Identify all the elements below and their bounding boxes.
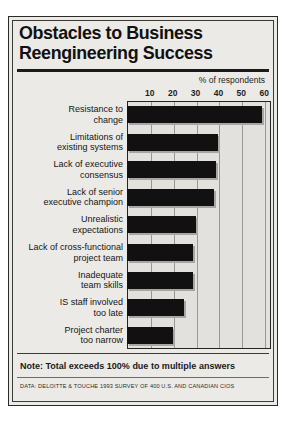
bar-series: Resistance to changeLimitations of exist… <box>9 101 278 349</box>
bar-row: Unrealistic expectations <box>9 211 278 239</box>
bar-row: Lack of senior executive champion <box>9 184 278 212</box>
bar-category-label: IS staff involved too late <box>8 297 123 318</box>
x-tick-label: 40 <box>214 88 223 98</box>
chart-title-line-2: Reengineering Success <box>19 43 252 63</box>
title-divider <box>17 69 269 72</box>
bar-category-label: Resistance to change <box>8 104 123 125</box>
note-divider <box>17 353 269 354</box>
x-tick-label: 30 <box>191 88 200 98</box>
bar-row: Resistance to change <box>9 101 278 129</box>
x-tick-label: 20 <box>168 88 177 98</box>
bar <box>127 244 193 261</box>
chart-source: DATA: DELOITTE & TOUCHE 1993 SURVEY OF 4… <box>20 383 234 389</box>
bar-category-label: Lack of cross-functional project team <box>8 242 123 263</box>
x-tick-label: 10 <box>145 88 154 98</box>
bar <box>127 272 193 289</box>
bar-row: Lack of cross-functional project team <box>9 239 278 267</box>
chart-note: Note: Total exceeds 100% due to multiple… <box>20 361 235 371</box>
x-tick-label: 50 <box>237 88 246 98</box>
bar-category-label: Lack of executive consensus <box>8 159 123 180</box>
bar-category-label: Unrealistic expectations <box>8 214 123 235</box>
bar <box>127 161 216 178</box>
x-axis-ticklabels: 102030405060 <box>9 88 278 99</box>
bar-category-label: Lack of senior executive champion <box>8 187 123 208</box>
bar <box>127 106 262 123</box>
bar <box>127 216 196 233</box>
bar-row: Limitations of existing systems <box>9 129 278 157</box>
bar <box>127 299 184 316</box>
x-tick-label: 60 <box>259 88 268 98</box>
bar <box>127 327 173 344</box>
bar <box>127 189 214 206</box>
bar-row: IS staff involved too late <box>9 294 278 322</box>
bar-row: Inadequate team skills <box>9 266 278 294</box>
bar-row: Project charter too narrow <box>9 321 278 349</box>
chart-title: Obstacles to Business Reengineering Succ… <box>19 23 267 63</box>
bar <box>127 134 218 151</box>
chart-figure: Obstacles to Business Reengineering Succ… <box>8 16 278 406</box>
bar-category-label: Inadequate team skills <box>8 270 123 291</box>
chart-title-line-1: Obstacles to Business <box>19 23 252 43</box>
source-divider <box>17 377 269 378</box>
bar-category-label: Project charter too narrow <box>8 325 123 346</box>
bar-row: Lack of executive consensus <box>9 156 278 184</box>
bar-category-label: Limitations of existing systems <box>8 132 123 153</box>
x-axis-label: % of respondents <box>199 75 265 85</box>
